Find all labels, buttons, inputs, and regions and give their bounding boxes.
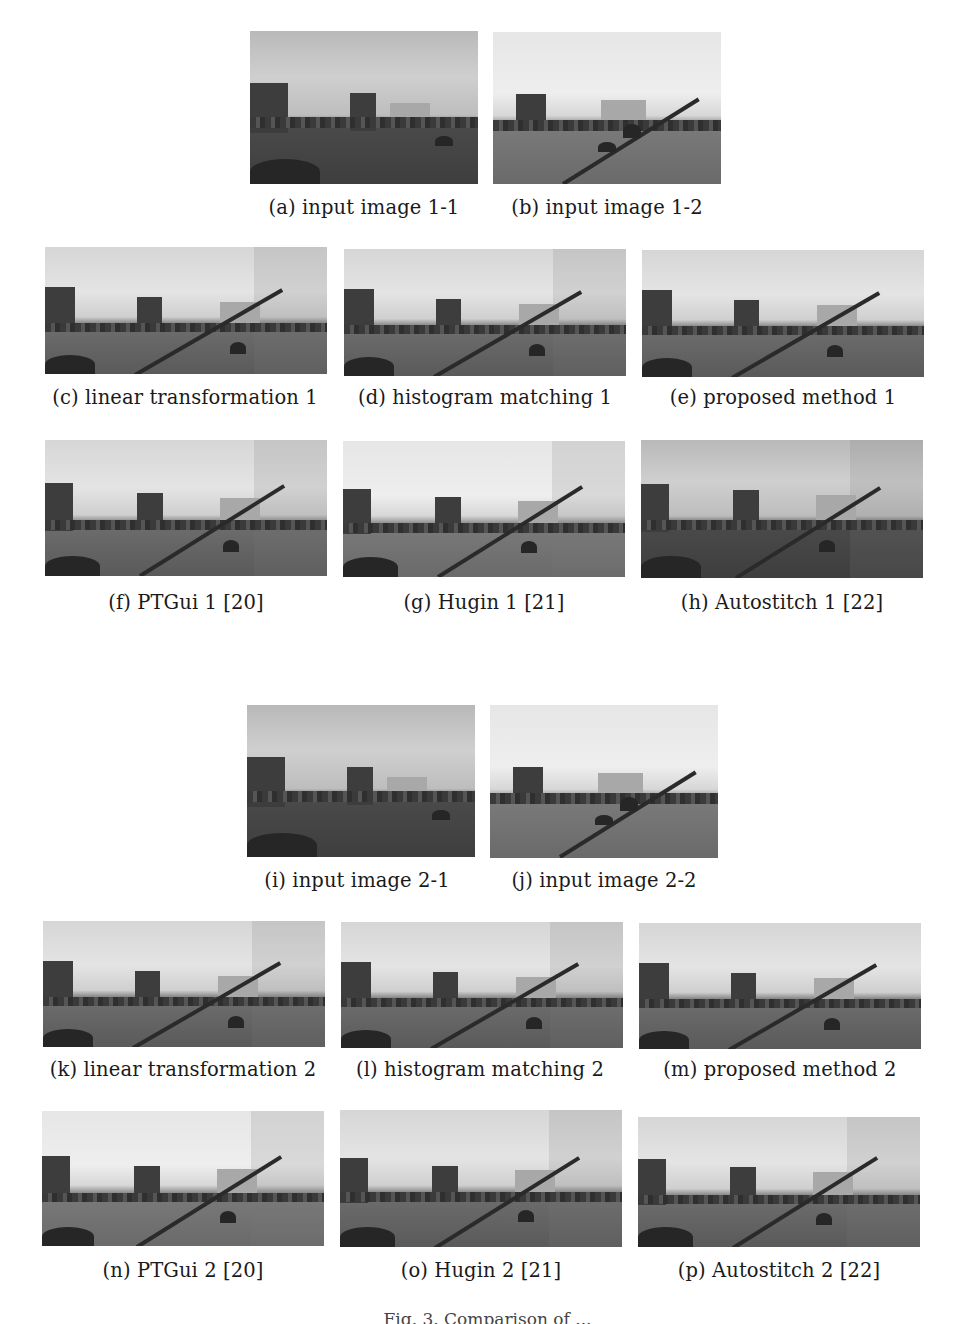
caption-b: (b) input image 1-2	[493, 196, 721, 219]
image-autostitch-1	[641, 440, 923, 578]
image-autostitch-2	[638, 1117, 920, 1247]
caption-c: (c) linear transformation 1	[35, 386, 335, 409]
caption-g: (g) Hugin 1 [21]	[343, 591, 625, 614]
caption-d: (d) histogram matching 1	[335, 386, 635, 409]
caption-m: (m) proposed method 2	[625, 1058, 935, 1081]
caption-a: (a) input image 1-1	[250, 196, 478, 219]
image-input-1-1	[250, 31, 478, 184]
caption-k: (k) linear transformation 2	[33, 1058, 333, 1081]
caption-n: (n) PTGui 2 [20]	[42, 1259, 324, 1282]
image-ptgui-1	[45, 440, 327, 576]
image-input-2-1	[247, 705, 475, 857]
image-proposed-method-1	[642, 250, 924, 377]
image-linear-transformation-2	[43, 921, 325, 1047]
image-histogram-matching-1	[344, 249, 626, 376]
caption-h: (h) Autostitch 1 [22]	[631, 591, 933, 614]
caption-j: (j) input image 2-2	[490, 869, 718, 892]
image-input-2-2	[490, 705, 718, 858]
image-histogram-matching-2	[341, 922, 623, 1048]
image-hugin-2	[340, 1110, 622, 1247]
image-input-1-2	[493, 32, 721, 184]
caption-p: (p) Autostitch 2 [22]	[628, 1259, 930, 1282]
caption-i: (i) input image 2-1	[243, 869, 471, 892]
figure-caption: Fig. 3. Comparison of ...	[0, 1309, 975, 1324]
caption-e: (e) proposed method 1	[628, 386, 938, 409]
image-linear-transformation-1	[45, 247, 327, 374]
caption-l: (l) histogram matching 2	[330, 1058, 630, 1081]
image-proposed-method-2	[639, 923, 921, 1049]
image-hugin-1	[343, 441, 625, 577]
image-ptgui-2	[42, 1111, 324, 1246]
caption-o: (o) Hugin 2 [21]	[340, 1259, 622, 1282]
caption-f: (f) PTGui 1 [20]	[45, 591, 327, 614]
